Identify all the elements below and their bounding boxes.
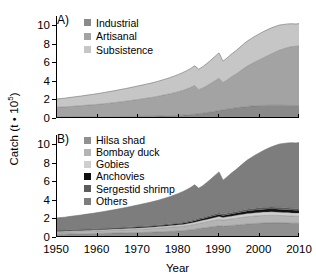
panel-a-x-tick xyxy=(259,114,260,118)
panel-b-y-tick-label: 6 xyxy=(44,175,50,187)
panel-b-legend-swatch-icon xyxy=(84,137,91,144)
panel-a-y-tick-label: 0 xyxy=(44,112,50,124)
panel-b-y-tick-label: 10 xyxy=(37,138,50,150)
panel-a-x-tick xyxy=(178,114,179,118)
panel-a-legend-swatch-icon xyxy=(84,46,91,53)
panel-a-x-tick xyxy=(137,114,138,118)
panel-b-legend-swatch-icon xyxy=(84,198,91,205)
panel-a-x-tick xyxy=(298,114,299,118)
panel-b-legend-label: Others xyxy=(96,196,128,207)
panel-a-legend-label: Subsistence xyxy=(96,45,153,56)
panel-b-x-tick-label: 1970 xyxy=(124,243,150,255)
x-axis-label: Year xyxy=(56,262,299,274)
y-axis-label-close: ) xyxy=(8,92,20,96)
panel-b-y-tick-label: 2 xyxy=(44,212,50,224)
y-axis-label-mid: • 10 xyxy=(8,101,20,125)
panel-b-y-tick-label: 4 xyxy=(44,194,50,206)
panel-a-y-tick-label: 8 xyxy=(44,38,50,50)
panel-b-y-tick xyxy=(52,200,56,201)
panel-a-y-tick xyxy=(52,62,56,63)
panel-b-x-tick xyxy=(97,233,98,237)
panel-b-legend-label: Sergestid shrimp xyxy=(96,184,175,195)
panel-b-x-tick-label: 1980 xyxy=(165,243,191,255)
panel-b-legend: Hilsa shadBombay duckGobiesAnchoviesSerg… xyxy=(84,134,175,207)
panel-b-legend-item[interactable]: Bombay duck xyxy=(84,146,175,158)
y-axis-label-text: Catch (t xyxy=(8,124,20,165)
panel-b-legend-label: Gobies xyxy=(96,159,129,170)
panel-a-legend-item[interactable]: Subsistence xyxy=(84,43,153,57)
panel-a-y-tick xyxy=(52,99,56,100)
panel-b-x-tick xyxy=(178,233,179,237)
panel-b-legend-label: Hilsa shad xyxy=(96,135,145,146)
panel-a-x-tick xyxy=(218,114,219,118)
panel-a-y-tick-label: 4 xyxy=(44,75,50,87)
panel-a-legend-item[interactable]: Industrial xyxy=(84,16,153,30)
panel-b-y-tick-label: 0 xyxy=(44,231,50,243)
panel-a-y-tick-label: 2 xyxy=(44,93,50,105)
panel-b-legend-item[interactable]: Anchovies xyxy=(84,171,175,183)
panel-b-y-tick xyxy=(52,181,56,182)
panel-b-legend-swatch-icon xyxy=(84,149,91,156)
panel-a-legend-swatch-icon xyxy=(84,33,91,40)
panel-b-x-tick-label: 1990 xyxy=(205,243,231,255)
panel-b-x-tick xyxy=(218,233,219,237)
panel-b-legend-swatch-icon xyxy=(84,161,91,168)
panel-a-legend-item[interactable]: Artisanal xyxy=(84,30,153,44)
panel-a-y-tick xyxy=(52,118,56,119)
panel-b-legend-item[interactable]: Sergestid shrimp xyxy=(84,183,175,195)
panel-a-letter: A) xyxy=(57,13,69,27)
panel-b-legend-label: Anchovies xyxy=(96,171,144,182)
panel-b-legend-item[interactable]: Others xyxy=(84,195,175,207)
panel-a-legend-label: Industrial xyxy=(96,18,139,29)
panel-b-legend-swatch-icon xyxy=(84,173,91,180)
panel-b-x-tick xyxy=(259,233,260,237)
panel-b-legend-label: Bombay duck xyxy=(96,147,160,158)
panel-b-letter: B) xyxy=(57,132,69,146)
panel-b-x-tick-label: 1960 xyxy=(84,243,110,255)
panel-a-legend-swatch-icon xyxy=(84,19,91,26)
panel-b-x-tick-label: 1950 xyxy=(43,243,69,255)
panel-a-legend-label: Artisanal xyxy=(96,31,137,42)
panel-b-y-tick xyxy=(52,144,56,145)
panel-a-y-tick-label: 10 xyxy=(37,19,50,31)
panel-a-x-tick xyxy=(97,114,98,118)
panel-a-y-tick xyxy=(52,44,56,45)
panel-b-legend-item[interactable]: Gobies xyxy=(84,158,175,170)
panel-b-x-tick-label: 2010 xyxy=(286,243,312,255)
panel-b-y-tick-label: 8 xyxy=(44,157,50,169)
panel-b-x-tick-label: 2000 xyxy=(246,243,272,255)
panel-b-x-tick xyxy=(137,233,138,237)
panel-a-legend: IndustrialArtisanalSubsistence xyxy=(84,16,153,57)
panel-a-y-tick-label: 6 xyxy=(44,56,50,68)
panel-b-legend-item[interactable]: Hilsa shad xyxy=(84,134,175,146)
panel-a-y-tick xyxy=(52,25,56,26)
figure-root: Catch (t • 105) 0246810 A) IndustrialArt… xyxy=(0,0,316,280)
panel-b-y-tick xyxy=(52,218,56,219)
panel-b-x-tick xyxy=(298,233,299,237)
panel-b-y-tick xyxy=(52,237,56,238)
panel-b-x-tick xyxy=(56,233,57,237)
panel-b-legend-swatch-icon xyxy=(84,185,91,192)
y-axis-label: Catch (t • 105) xyxy=(6,69,20,189)
panel-a-x-tick xyxy=(56,114,57,118)
y-axis-label-exponent: 5 xyxy=(6,96,15,101)
panel-b-y-tick xyxy=(52,163,56,164)
panel-a-y-tick xyxy=(52,81,56,82)
